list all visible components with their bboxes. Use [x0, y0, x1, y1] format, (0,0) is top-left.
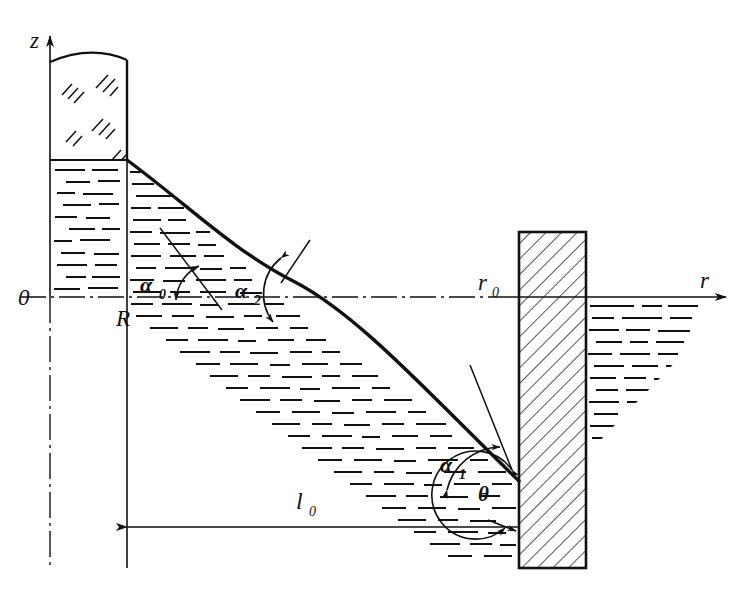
figure-canvas: α 0 α 2 α 1 θ r 0 R 0 z r l 0 [0, 0, 751, 600]
gas-region [50, 53, 127, 189]
dimension-l0: l 0 [127, 488, 519, 527]
angle-alpha0-sub: 0 [159, 287, 166, 302]
liquid-region-main [130, 172, 516, 556]
angle-alpha2-label: α [235, 278, 248, 303]
marker-r0: r 0 [478, 270, 499, 300]
diagram-svg: α 0 α 2 α 1 θ r 0 R 0 z r l 0 [0, 0, 751, 600]
dimension-l0-label: l [296, 488, 303, 514]
liquid-hatch-right [588, 306, 698, 438]
liquid-hatch-main [130, 172, 516, 556]
origin-label: 0 [18, 285, 30, 310]
angle-theta-label: θ [478, 482, 489, 506]
marker-R-label: R [115, 306, 130, 331]
angle-alpha2-sub: 2 [253, 293, 261, 308]
angle-alpha1-label: α [440, 452, 453, 477]
marker-r0-sub: 0 [492, 285, 499, 300]
r-axis-label: r [700, 268, 710, 293]
z-axis-label: z [29, 28, 39, 53]
angle-alpha0-label: α [140, 272, 153, 297]
meniscus-free-surface [127, 160, 519, 481]
marker-r0-label: r [478, 270, 488, 295]
angle-alpha1-sub: 1 [459, 467, 466, 482]
dimension-l0-sub: 0 [309, 504, 316, 519]
liquid-region-left [50, 160, 127, 289]
liquid-hatch-left [54, 170, 120, 289]
liquid-region-right [588, 306, 698, 438]
wall [519, 232, 586, 568]
